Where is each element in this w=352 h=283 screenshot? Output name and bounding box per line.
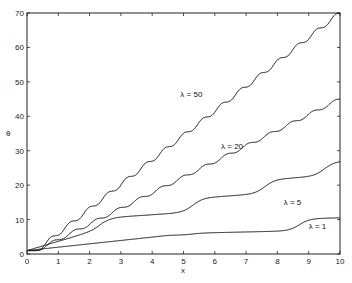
x-tick-label: 6: [213, 257, 218, 266]
series-line: [27, 218, 340, 251]
x-tick-label: 3: [119, 257, 124, 266]
series-line: [27, 13, 340, 251]
series-label: λ = 1: [309, 222, 327, 231]
x-tick-label: 1: [56, 257, 61, 266]
plot-area: 012345678910010203040506070λ = 50λ = 20λ…: [15, 9, 345, 266]
y-tick-label: 30: [15, 147, 24, 156]
y-tick-label: 60: [15, 43, 24, 52]
y-tick-label: 40: [15, 112, 24, 121]
x-tick-label: 9: [306, 257, 311, 266]
x-tick-label: 7: [244, 257, 249, 266]
x-tick-label: 5: [181, 257, 186, 266]
series-label: λ = 50: [180, 90, 203, 99]
x-tick-label: 2: [87, 257, 92, 266]
y-tick-label: 10: [15, 216, 24, 225]
x-tick-label: 8: [275, 257, 280, 266]
x-tick-label: 4: [150, 257, 155, 266]
x-tick-label: 0: [25, 257, 30, 266]
series-label: λ = 5: [284, 198, 302, 207]
line-chart: 012345678910010203040506070λ = 50λ = 20λ…: [0, 0, 352, 283]
y-tick-label: 50: [15, 78, 24, 87]
y-tick-label: 0: [20, 250, 25, 259]
y-tick-label: 20: [15, 181, 24, 190]
x-axis-label: x: [181, 266, 185, 275]
y-tick-label: 70: [15, 9, 24, 18]
y-axis-label: θ: [6, 129, 11, 138]
x-tick-label: 10: [336, 257, 345, 266]
series-label: λ = 20: [221, 142, 244, 151]
